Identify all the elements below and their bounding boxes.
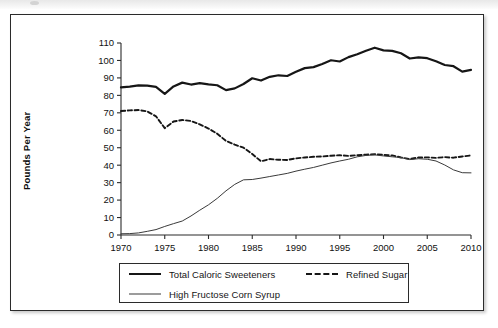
- x-axis-tick-label: 1995: [329, 242, 350, 253]
- x-axis-tick-label: 2005: [417, 242, 438, 253]
- y-axis-tick-label: 10: [103, 212, 114, 223]
- chart-legend: Total Caloric Sweeteners Refined Sugar H…: [119, 263, 409, 303]
- x-axis-tick-label: 2010: [460, 242, 481, 253]
- legend-label-high-fructose-corn-syrup: High Fructose Corn Syrup: [169, 289, 280, 300]
- legend-line-swatch-solid-thick-icon: [129, 269, 161, 279]
- y-axis-tick-label: 30: [103, 177, 114, 188]
- y-axis-tick-label: 90: [103, 72, 114, 83]
- legend-line-swatch-solid-thin-icon: [129, 289, 161, 299]
- x-axis-tick-label: 1980: [198, 242, 219, 253]
- y-axis-title: Pounds Per Year: [21, 112, 32, 190]
- y-axis-tick-label: 20: [103, 194, 114, 205]
- y-axis-tick-label: 70: [103, 107, 114, 118]
- scan-artifact-speck: [30, 1, 39, 5]
- legend-row-2: High Fructose Corn Syrup: [120, 284, 408, 304]
- y-axis-tick-label: 80: [103, 90, 114, 101]
- legend-item-high-fructose-corn-syrup: High Fructose Corn Syrup: [129, 289, 306, 300]
- y-axis-tick-label: 100: [98, 55, 114, 66]
- y-axis-tick-label: 110: [99, 37, 114, 48]
- y-axis-tick-label: 50: [103, 142, 114, 153]
- figure-page: 0102030405060708090100110197019751980198…: [0, 0, 498, 328]
- series-line-refined-sugar: [121, 110, 471, 161]
- legend-label-total-caloric-sweeteners: Total Caloric Sweeteners: [169, 269, 275, 280]
- y-axis-tick-label: 60: [103, 125, 114, 136]
- legend-line-swatch-dashed-icon: [306, 269, 338, 279]
- scan-artifact-band: [0, 0, 498, 9]
- chart-figure-frame: 0102030405060708090100110197019751980198…: [10, 14, 484, 311]
- legend-row-1: Total Caloric Sweeteners Refined Sugar: [120, 264, 408, 284]
- x-axis-tick-label: 2000: [373, 242, 394, 253]
- legend-item-refined-sugar: Refined Sugar: [306, 269, 407, 280]
- x-axis-tick-label: 1975: [154, 242, 175, 253]
- series-line-total-caloric-sweeteners: [121, 48, 471, 94]
- y-axis-tick-label: 40: [103, 160, 114, 171]
- x-axis-tick-label: 1970: [110, 242, 131, 253]
- legend-label-refined-sugar: Refined Sugar: [346, 269, 407, 280]
- series-line-high-fructose-corn-syrup: [121, 155, 471, 234]
- x-axis-tick-label: 1990: [285, 242, 306, 253]
- y-axis-tick-label: 0: [109, 229, 114, 240]
- legend-item-total-caloric-sweeteners: Total Caloric Sweeteners: [129, 269, 306, 280]
- x-axis-tick-label: 1985: [242, 242, 263, 253]
